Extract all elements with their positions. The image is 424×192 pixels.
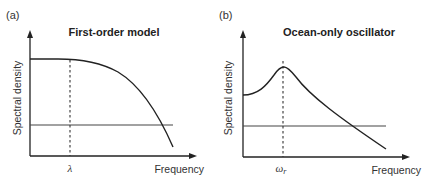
panel-a-y-axis-arrow-icon xyxy=(27,30,33,38)
panel-b-label: (b) xyxy=(219,9,232,21)
omega-subscript: r xyxy=(283,167,287,176)
panel-a-spectrum-curve xyxy=(30,59,173,147)
panel-a-x-label: Frequency xyxy=(154,163,204,175)
diagram-canvas: (a) First-order model Spectral density F… xyxy=(0,0,424,192)
panel-a-x-axis-arrow-icon xyxy=(189,153,197,159)
panel-b-omega-label: ωr xyxy=(276,162,288,176)
panel-b-y-label: Spectral density xyxy=(222,60,234,135)
panel-a-label: (a) xyxy=(6,9,19,21)
panel-b-y-axis-arrow-icon xyxy=(240,30,246,38)
panel-b-title: Ocean-only oscillator xyxy=(283,26,396,38)
panel-a: (a) First-order model Spectral density F… xyxy=(6,9,205,175)
panel-b-x-label: Frequency xyxy=(371,164,421,176)
panel-a-lambda-label: λ xyxy=(67,162,73,174)
panel-a-y-label: Spectral density xyxy=(11,60,23,135)
panel-a-title: First-order model xyxy=(68,26,159,38)
panel-b-spectrum-curve xyxy=(243,67,386,149)
panel-b-x-axis-arrow-icon xyxy=(402,154,410,160)
panel-b: (b) Ocean-only oscillator Spectral densi… xyxy=(219,9,422,176)
